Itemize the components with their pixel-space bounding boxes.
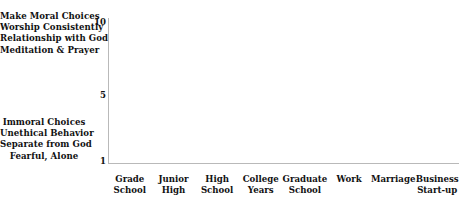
plot-area xyxy=(109,18,459,163)
x-label-line-2: High xyxy=(152,185,196,196)
x-axis-label-grade-school: Grade School xyxy=(108,174,152,204)
x-label-line-1: Marriage xyxy=(371,174,415,185)
x-label-line-1: Business xyxy=(415,174,459,185)
x-label-line-1: High xyxy=(195,174,239,185)
anchor-low-line-1: Immoral Choices xyxy=(0,117,88,128)
anchor-high-line-4: Meditation & Prayer xyxy=(0,45,88,56)
anchor-low-line-3: Separate from God xyxy=(0,139,88,150)
x-label-line-1: Junior xyxy=(152,174,196,185)
x-axis-label-high-school: High School xyxy=(195,174,239,204)
anchor-high-line-2: Worship Consistently xyxy=(0,22,88,33)
x-axis-line xyxy=(108,163,459,164)
x-label-line-2: School xyxy=(108,185,152,196)
x-label-line-2: School xyxy=(283,185,328,196)
anchor-low-line-4: Fearful, Alone xyxy=(0,151,88,162)
x-axis-label-row: Grade School Junior High High School Col… xyxy=(108,174,459,204)
x-axis-label-junior-high: Junior High xyxy=(152,174,196,204)
x-label-line-1: College xyxy=(239,174,283,185)
y-axis-tick-label-10: 10 xyxy=(84,17,106,27)
x-label-line-2: Years xyxy=(239,185,283,196)
x-label-line-2: School xyxy=(195,185,239,196)
y-axis-tick-label-1: 1 xyxy=(84,156,106,166)
x-axis-label-graduate-school: Graduate School xyxy=(283,174,328,204)
x-axis-label-work: Work xyxy=(327,174,371,204)
x-label-line-1: Grade xyxy=(108,174,152,185)
anchor-high-line-1: Make Moral Choices xyxy=(0,11,88,22)
x-label-line-1: Graduate xyxy=(283,174,328,185)
anchor-low-line-2: Unethical Behavior xyxy=(0,128,88,139)
x-axis-label-marriage: Marriage xyxy=(371,174,415,204)
y-axis-low-anchor-label: Immoral Choices Unethical Behavior Separ… xyxy=(0,117,88,162)
x-axis-label-college-years: College Years xyxy=(239,174,283,204)
x-axis-label-business-startup: Business Start-up xyxy=(415,174,459,204)
x-label-line-2: Start-up xyxy=(415,185,459,196)
x-label-line-1: Work xyxy=(327,174,371,185)
y-axis-tick-label-5: 5 xyxy=(84,90,106,100)
chart-container: Make Moral Choices Worship Consistently … xyxy=(0,0,459,209)
anchor-high-line-3: Relationship with God xyxy=(0,33,88,44)
y-axis-high-anchor-label: Make Moral Choices Worship Consistently … xyxy=(0,11,88,56)
